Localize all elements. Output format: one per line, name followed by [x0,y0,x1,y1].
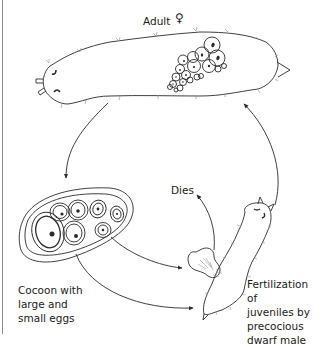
arrow-dwarf-male-to-dies [197,195,214,250]
adult-worm-illustration [36,27,290,108]
arrow-cocoon-to-dwarf-male [111,237,182,268]
arrow-adult-to-cocoon [66,103,108,178]
adult-egg-cluster [168,37,227,92]
arrow-juvenile-to-adult [244,104,278,205]
female-symbol-icon: ♀ [175,11,184,25]
adult-label: Adult [143,14,170,28]
dwarf-male-illustration [188,248,222,278]
cocoon-label: Cocoon with large and small eggs [18,283,83,325]
cocoon-illustration [19,188,133,262]
fertilization-label: Fertilization of juveniles by precocious… [247,277,321,347]
arrow-cocoon-to-juvenile [76,254,193,308]
dies-label: Dies [171,183,194,197]
